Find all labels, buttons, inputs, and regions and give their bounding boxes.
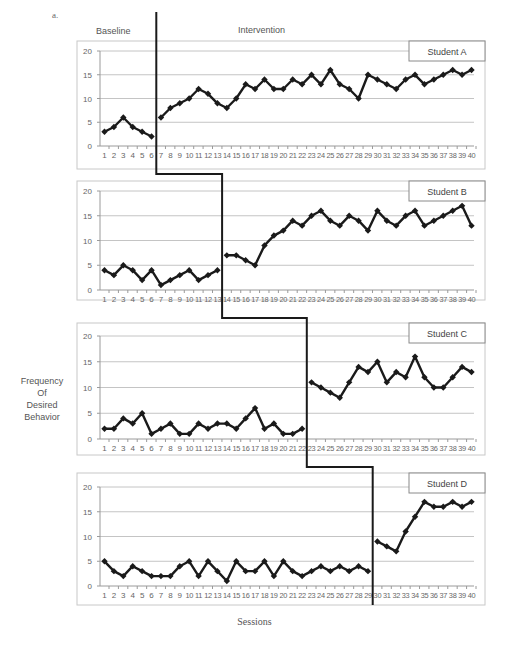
x-tick-label: 26 bbox=[336, 295, 344, 304]
x-tick-label: 15 bbox=[232, 295, 240, 304]
x-tick-label: 39 bbox=[458, 295, 466, 304]
x-tick-label: 3 bbox=[121, 295, 126, 304]
x-tick-label: 37 bbox=[439, 444, 447, 453]
x-tick-label: 21 bbox=[289, 591, 297, 600]
y-tick-label: 0 bbox=[88, 286, 93, 295]
x-tick-label: 17 bbox=[251, 151, 259, 160]
x-tick-label: 12 bbox=[204, 591, 212, 600]
x-tick-label: 16 bbox=[242, 295, 250, 304]
x-tick-label: 11 bbox=[195, 151, 202, 160]
y-tick-label: 15 bbox=[83, 358, 92, 367]
x-tick-label: 1 bbox=[102, 151, 107, 160]
x-tick-label: 27 bbox=[345, 295, 353, 304]
x-tick-label: 36 bbox=[430, 151, 438, 160]
x-tick-label: 34 bbox=[411, 295, 419, 304]
x-tick-label: 32 bbox=[392, 444, 400, 453]
x-tick-label: 21 bbox=[289, 295, 297, 304]
x-tick-label: 28 bbox=[355, 151, 363, 160]
x-tick-label: 30 bbox=[374, 444, 382, 453]
x-tick-label: 9 bbox=[178, 444, 183, 453]
x-tick-label: 8 bbox=[168, 295, 173, 304]
x-tick-label: 4 bbox=[131, 444, 136, 453]
x-tick-label: 17 bbox=[251, 444, 259, 453]
x-tick-label: 19 bbox=[270, 295, 278, 304]
x-tick-label: 21 bbox=[289, 444, 297, 453]
y-tick-label: 5 bbox=[88, 261, 93, 270]
x-tick-label: 3 bbox=[121, 444, 126, 453]
x-tick-label: 33 bbox=[402, 295, 410, 304]
x-tick-label: 2 bbox=[112, 591, 117, 600]
x-tick-label: 17 bbox=[251, 591, 259, 600]
x-tick-label: 30 bbox=[374, 151, 382, 160]
x-tick-label: 4 bbox=[131, 151, 136, 160]
y-tick-label: 5 bbox=[88, 557, 93, 566]
x-tick-label: 13 bbox=[214, 444, 222, 453]
y-tick-label: 5 bbox=[88, 118, 93, 127]
x-tick-label: 30 bbox=[374, 295, 382, 304]
x-tick-label: 19 bbox=[270, 444, 278, 453]
x-tick-label: 36 bbox=[430, 295, 438, 304]
y-tick-label: 20 bbox=[83, 187, 92, 196]
x-tick-label: 9 bbox=[178, 295, 183, 304]
x-tick-label: 9 bbox=[178, 151, 183, 160]
x-tick-label: 7 bbox=[159, 151, 164, 160]
panel-student-c: 0510152012345678910111213141516171819202… bbox=[77, 323, 485, 455]
x-tick-label: 27 bbox=[345, 444, 353, 453]
x-tick-label: 6 bbox=[149, 591, 154, 600]
x-tick-label: 10 bbox=[185, 444, 193, 453]
x-tick-label: 29 bbox=[364, 591, 372, 600]
x-tick-label: 26 bbox=[336, 444, 344, 453]
x-tick-label: 3 bbox=[121, 151, 126, 160]
y-tick-label: 10 bbox=[83, 533, 92, 542]
x-tick-label: 26 bbox=[336, 151, 344, 160]
x-tick-label: 35 bbox=[421, 591, 429, 600]
x-tick-label: 23 bbox=[308, 591, 316, 600]
x-tick-label: 2 bbox=[112, 444, 117, 453]
x-tick-label: 37 bbox=[439, 591, 447, 600]
x-tick-label: 26 bbox=[336, 591, 344, 600]
x-tick-label: 18 bbox=[261, 591, 269, 600]
x-tick-label: 33 bbox=[402, 151, 410, 160]
x-tick-label: 20 bbox=[279, 151, 287, 160]
x-tick-label: 18 bbox=[261, 295, 269, 304]
x-tick-label: 6 bbox=[149, 151, 154, 160]
x-tick-label: 15 bbox=[232, 444, 240, 453]
x-tick-label: 40 bbox=[468, 295, 476, 304]
x-tick-label: 2 bbox=[112, 151, 117, 160]
x-tick-label: 20 bbox=[279, 444, 287, 453]
x-tick-label: 38 bbox=[449, 295, 457, 304]
x-tick-label: 34 bbox=[411, 444, 419, 453]
x-tick-label: 1 bbox=[102, 444, 107, 453]
x-tick-label: 24 bbox=[317, 591, 325, 600]
y-tick-label: 0 bbox=[88, 435, 93, 444]
x-tick-label: 24 bbox=[317, 444, 325, 453]
x-tick-label: 15 bbox=[232, 151, 240, 160]
x-tick-label: 31 bbox=[383, 591, 391, 600]
x-tick-label: 21 bbox=[289, 151, 297, 160]
x-tick-label: 22 bbox=[298, 151, 306, 160]
x-tick-label: 23 bbox=[308, 444, 316, 453]
x-tick-label: 28 bbox=[355, 444, 363, 453]
x-tick-label: 20 bbox=[279, 591, 287, 600]
x-tick-label: 34 bbox=[411, 591, 419, 600]
x-tick-label: 5 bbox=[140, 151, 145, 160]
student-label: Student A bbox=[427, 47, 466, 57]
x-tick-label: 13 bbox=[214, 151, 222, 160]
y-tick-label: 15 bbox=[83, 212, 92, 221]
x-tick-label: 4 bbox=[131, 591, 136, 600]
x-tick-label: 28 bbox=[355, 295, 363, 304]
x-tick-label: 5 bbox=[140, 444, 145, 453]
x-tick-label: 35 bbox=[421, 295, 429, 304]
x-tick-label: 19 bbox=[270, 151, 278, 160]
x-tick-label: 2 bbox=[112, 295, 117, 304]
x-tick-label: 10 bbox=[185, 151, 193, 160]
x-tick-label: 1 bbox=[102, 295, 107, 304]
x-tick-label: 6 bbox=[149, 444, 154, 453]
x-tick-label: 3 bbox=[121, 591, 126, 600]
y-tick-label: 0 bbox=[88, 142, 93, 151]
y-tick-label: 0 bbox=[88, 582, 93, 591]
x-tick-label: 27 bbox=[345, 151, 353, 160]
x-tick-label: 14 bbox=[223, 151, 231, 160]
x-tick-label: 32 bbox=[392, 295, 400, 304]
x-tick-label: 25 bbox=[327, 444, 335, 453]
